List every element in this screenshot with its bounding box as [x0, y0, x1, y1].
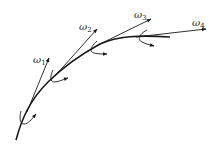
omega-2-arrow [55, 29, 97, 76]
rotation-hook-4 [139, 30, 154, 46]
omega-2-label: ω2 [79, 21, 92, 34]
omega-3-label: ω3 [134, 9, 147, 22]
omega-4-label: ω4 [192, 17, 205, 30]
angular-velocity-diagram: ω1 ω2 ω3 ω4 [0, 0, 216, 155]
omega-1-label: ω1 [33, 54, 46, 67]
main-curve [16, 36, 170, 140]
